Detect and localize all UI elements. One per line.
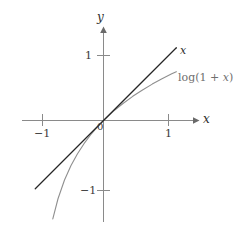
function-plot-figure: y x 0 −1 1 1 −1 x log(1 + x) <box>0 0 242 231</box>
y-axis-label: y <box>97 11 104 23</box>
origin-label: 0 <box>97 122 103 132</box>
log-curve-label: log(1 + x) <box>178 72 233 83</box>
identity-curve-label: x <box>180 45 186 56</box>
log-curve-label-suffix: ) <box>229 71 233 84</box>
y-tick-label-1: 1 <box>85 50 92 61</box>
y-tick-label-minus-1: −1 <box>80 185 96 196</box>
identity-line <box>35 48 176 189</box>
x-axis-label: x <box>203 113 210 125</box>
x-tick-label-minus-1: −1 <box>34 128 50 139</box>
x-axis-arrowhead <box>193 117 200 124</box>
x-tick-label-1: 1 <box>165 128 172 139</box>
log-curve-label-prefix: log(1 + <box>178 71 223 84</box>
log-curve <box>53 72 177 219</box>
y-axis-arrowhead <box>100 27 107 34</box>
